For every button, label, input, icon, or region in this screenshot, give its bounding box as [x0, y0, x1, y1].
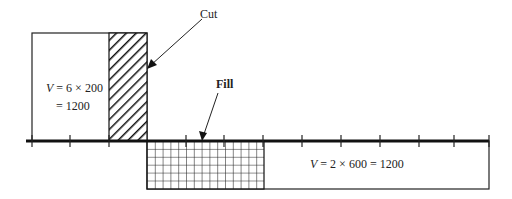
upper-volume-result: = 1200: [56, 99, 90, 114]
lower-volume-formula: V = 2 × 600 = 1200: [310, 157, 404, 172]
lower-volume-expression: = 2 × 600 = 1200: [317, 157, 403, 171]
upper-volume-expression: = 6 × 200: [53, 81, 103, 95]
fill-arrow-icon: [199, 93, 218, 141]
cut-label: Cut: [200, 7, 217, 22]
upper-volume-formula: V = 6 × 200: [46, 81, 103, 96]
cut-arrow-icon: [147, 19, 202, 69]
fill-grid-area: [147, 141, 264, 189]
fill-label: Fill: [216, 77, 233, 92]
cut-hatched-area: [109, 33, 147, 141]
